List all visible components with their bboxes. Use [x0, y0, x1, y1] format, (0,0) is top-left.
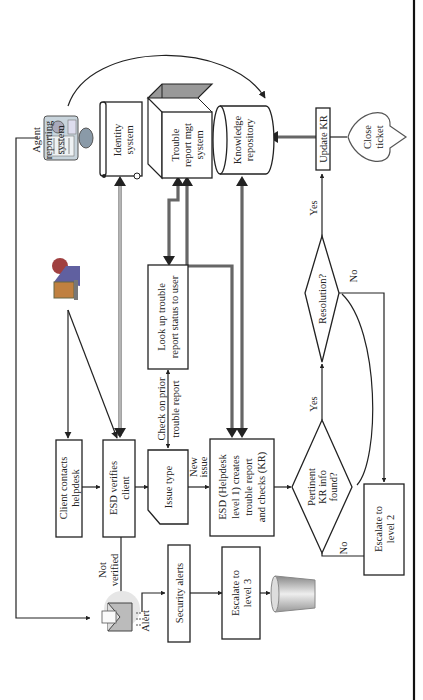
alert-label-line: Alert [140, 610, 151, 632]
new-issue-label-line: issue [198, 456, 209, 477]
knowledge-repo-label-line: repository [244, 118, 255, 161]
pertinent-label-line: Pertinent [306, 468, 317, 506]
resolution-label: Resolution? [317, 274, 328, 325]
security-alerts-label: Security alerts [174, 563, 185, 623]
not-verified-label-line: Not [97, 562, 108, 578]
resolution-label-line: Resolution? [317, 274, 328, 325]
yes-resolution-label-line: Yes [308, 200, 319, 215]
close-ticket-label-line: ticket [374, 125, 385, 148]
esd-creates-label-line: trouble report [243, 458, 254, 516]
trouble-mgt-label-line: system [194, 130, 205, 159]
client-contacts-label-line: Client contacts [58, 457, 69, 520]
lookup-status-node [148, 265, 188, 369]
esd-creates-label: ESD (Helpdesklevel 1) createstrouble rep… [217, 451, 268, 522]
agent-reporting-label-line: reporting [43, 120, 54, 159]
security-alerts-label-line: Security alerts [174, 563, 185, 623]
trouble-mgt-label-line: Trouble [170, 128, 181, 161]
new-issue-label: Newissue [188, 456, 209, 477]
identity-system-label-line: system [124, 125, 135, 154]
knowledge-repo-label-line: Knowledge [232, 115, 243, 164]
lookup-label-line: Look up trouble [156, 283, 167, 351]
update-kr-label: Update KR [318, 115, 329, 163]
close-ticket-label-line: Close [362, 125, 373, 149]
check-prior-label-line: Check on prior [156, 377, 167, 440]
client-contacts-label-line: helpdesk [70, 469, 81, 507]
escalate3-label-line: level 3 [242, 579, 253, 607]
identity-system-label: Identitysystem [112, 123, 135, 156]
issue-type-label-line: Issue type [163, 466, 174, 509]
resolution-loop-arc [342, 294, 373, 485]
yes-pertinent-label: Yes [308, 396, 319, 411]
pertinent-label-line: found? [328, 472, 339, 501]
trouble-to-esd-creates-connector [187, 180, 232, 434]
esd-verifies-label-line: client [120, 476, 131, 499]
user-to-esd-connector [68, 310, 117, 438]
escalate2-label-line: level 2 [385, 515, 396, 543]
trash-can-icon [271, 576, 315, 612]
esd-creates-label-line: ESD (Helpdesk [217, 453, 229, 519]
esd-creates-label-line: and checks (KR) [256, 451, 268, 522]
yes-pertinent-label-line: Yes [308, 396, 319, 411]
escalate2-label-line: Escalate to [373, 506, 384, 552]
close-ticket-label: Closeticket [362, 125, 385, 149]
yes-resolution-label: Yes [308, 200, 319, 215]
check-prior-label-line: trouble report [170, 380, 181, 438]
esd-verifies-label-line: ESD verifies [108, 461, 119, 515]
agent-reporting-label: Agentreportingsystem [31, 120, 66, 159]
user-at-computer-icon [52, 258, 80, 300]
not-verified-label: Notverified [97, 553, 120, 586]
escalate3-label-line: Escalate to [230, 570, 241, 616]
alert-label: Alert [140, 610, 151, 632]
knowledge-repo-label: Knowledgerepository [232, 115, 255, 164]
agent-reporting-label-line: Agent [31, 127, 42, 153]
no-resolution-label-line: No [348, 270, 359, 283]
trouble-to-lookup-connector [169, 180, 178, 256]
esd-creates-label-line: level 1) creates [230, 455, 242, 519]
not-verified-label-line: verified [109, 553, 120, 586]
identity-system-label-line: Identity [112, 123, 123, 156]
alert-to-security-connector [142, 593, 165, 612]
helpdesk-flowchart: AgentreportingsystemIdentitysystemTroubl… [0, 0, 423, 700]
no-pertinent-label: No [338, 542, 349, 555]
update-kr-label-line: Update KR [318, 115, 329, 163]
agent-to-alert-connector [16, 138, 90, 618]
no-pertinent-label-line: No [338, 542, 349, 555]
resolution-no-connector [339, 293, 384, 482]
pertinent-label: PertinentKR infofound? [306, 468, 339, 506]
email-alert-icon [102, 591, 144, 631]
pertinent-label-line: KR info [317, 470, 328, 504]
issue-type-label: Issue type [163, 466, 174, 509]
agent-reporting-label-line: system [55, 125, 66, 154]
lookup-label-line: report status to user [169, 275, 180, 358]
no-resolution-label: No [348, 270, 359, 283]
trouble-mgt-label-line: report mgt [182, 123, 193, 167]
